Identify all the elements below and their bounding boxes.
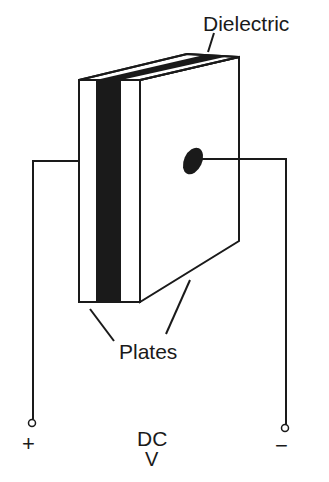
- plates-leader-left: [90, 309, 114, 341]
- positive-wire: [33, 161, 79, 419]
- negative-sign: −: [275, 433, 288, 458]
- dielectric-label: Dielectric: [203, 12, 289, 35]
- plates-label: Plates: [119, 340, 177, 363]
- capacitor-diagram: Dielectric Plates DC V + −: [0, 0, 329, 482]
- voltage-unit-label: V: [145, 448, 159, 470]
- dielectric-leader: [208, 33, 214, 52]
- negative-terminal: [282, 425, 289, 432]
- dielectric-layer: [96, 80, 121, 302]
- positive-terminal: [29, 420, 36, 427]
- dc-source-label: DC: [137, 427, 167, 450]
- positive-sign: +: [22, 431, 35, 456]
- plates-leader-right: [166, 280, 190, 334]
- back-plate: [140, 57, 239, 302]
